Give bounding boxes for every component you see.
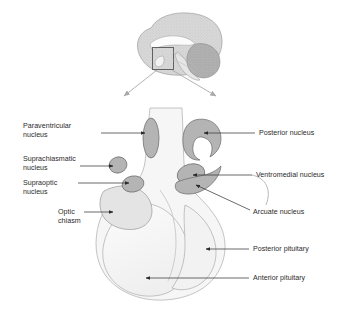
hypothalamus-figure: Paraventricular nucleus Suprachiasmatic … — [0, 0, 356, 320]
label-suprachiasmatic-nucleus: Suprachiasmatic nucleus — [23, 155, 76, 172]
inset-arrow-left — [124, 70, 157, 96]
posterior-nucleus-shape — [183, 119, 221, 160]
paraventricular-nucleus-shape — [143, 118, 159, 158]
label-arcuate-nucleus: Arcuate nucleus — [253, 208, 304, 217]
label-ventromedial-nucleus: Ventromedial nucleus — [256, 171, 324, 180]
label-posterior-nucleus: Posterior nucleus — [259, 129, 314, 138]
label-optic-chiasm: Optic chiasm — [58, 208, 81, 225]
label-paraventricular-nucleus: Paraventricular nucleus — [23, 122, 71, 139]
label-supraoptic-nucleus: Supraoptic nucleus — [23, 179, 57, 196]
suprachiasmatic-nucleus-shape — [107, 155, 129, 176]
label-posterior-pituitary: Posterior pituitary — [253, 245, 309, 254]
label-anterior-pituitary: Anterior pituitary — [253, 274, 305, 283]
brain-inset-group — [124, 13, 222, 96]
